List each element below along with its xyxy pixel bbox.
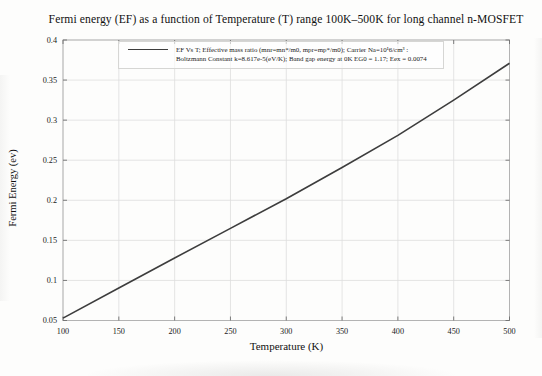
x-tick-label: 150 [113,327,125,336]
y-tick-label: 0.3 [47,116,57,125]
x-tick-label: 400 [392,327,404,336]
x-tick-label: 350 [336,327,348,336]
x-tick-label: 300 [280,327,292,336]
y-tick-label: 0.4 [47,36,57,45]
y-tick-label: 0.15 [43,236,57,245]
legend: EF Vs T; Effective mass ratio (mnr=mn*/m… [118,41,444,69]
figure: Fermi energy (EF) as a function of Tempe… [0,0,542,376]
y-tick-label: 0.2 [47,196,57,205]
x-axis-label: Temperature (K) [63,340,510,352]
legend-line-sample-icon [128,49,168,50]
y-tick-label: 0.25 [43,156,57,165]
y-tick-label: 0.05 [43,316,57,325]
y-tick-label: 0.1 [47,276,57,285]
legend-entry-line2: Boltzmann Constant k=8.617e-5(eV/K); Ban… [176,54,427,64]
legend-entry-line1: EF Vs T; Effective mass ratio (mnr=mn*/m… [176,45,427,55]
x-tick-label: 100 [57,327,69,336]
x-tick-label: 450 [448,327,460,336]
y-axis-label: Fermi Energy (ev) [7,108,23,268]
x-tick-label: 250 [224,327,236,336]
x-tick-label: 500 [503,327,515,336]
x-tick-label: 200 [168,327,180,336]
legend-entry: EF Vs T; Effective mass ratio (mnr=mn*/m… [176,45,427,64]
y-tick-label: 0.35 [43,76,57,85]
